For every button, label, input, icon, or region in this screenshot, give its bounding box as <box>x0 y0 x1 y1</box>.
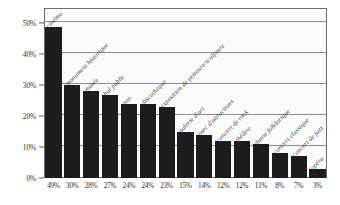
percentage-label: 11% <box>252 182 271 190</box>
bar <box>121 104 137 178</box>
percentage-label: 24% <box>119 182 138 190</box>
y-tick-label: 0% <box>26 174 36 183</box>
bar-chart-figure: 0%10%20%30%40%50% cinémamonument histori… <box>0 0 340 205</box>
y-tick-label: 40% <box>23 50 36 59</box>
bar <box>196 135 212 178</box>
bar <box>234 141 250 178</box>
y-tick-label: 30% <box>23 81 36 90</box>
y-tick-label: 50% <box>23 19 36 28</box>
bar <box>215 141 231 178</box>
y-tick-label: 20% <box>23 112 36 121</box>
percentage-label: 12% <box>233 182 252 190</box>
value-labels: 49%30%28%27%24%24%23%15%14%12%12%11%8%7%… <box>44 182 327 196</box>
bar <box>272 153 288 178</box>
percentage-label: 12% <box>214 182 233 190</box>
bar <box>45 27 61 178</box>
bar <box>309 169 325 178</box>
percentage-label: 49% <box>44 182 63 190</box>
percentage-label: 27% <box>101 182 120 190</box>
percentage-label: 23% <box>157 182 176 190</box>
percentage-label: 15% <box>176 182 195 190</box>
percentage-label: 14% <box>195 182 214 190</box>
bar-series <box>44 8 327 178</box>
bar <box>253 144 269 178</box>
bar <box>64 85 80 178</box>
percentage-label: 8% <box>270 182 289 190</box>
percentage-label: 28% <box>82 182 101 190</box>
y-tick-label: 10% <box>23 143 36 152</box>
percentage-label: 30% <box>63 182 82 190</box>
bar <box>159 107 175 178</box>
percentage-label: 3% <box>308 182 327 190</box>
percentage-label: 24% <box>138 182 157 190</box>
bar <box>291 156 307 178</box>
bar <box>177 132 193 178</box>
bar <box>140 104 156 178</box>
bar <box>83 91 99 178</box>
percentage-label: 7% <box>289 182 308 190</box>
y-axis: 0%10%20%30%40%50% <box>0 0 44 186</box>
bar <box>102 95 118 178</box>
